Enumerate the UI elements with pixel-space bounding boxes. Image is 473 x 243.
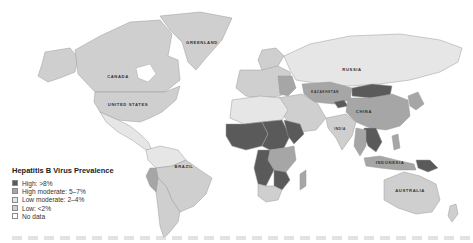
- region-papua-new-guinea: [416, 160, 438, 172]
- region-eastern-europe: [278, 76, 296, 96]
- region-west-africa: [226, 122, 268, 150]
- legend-item-no-data: No data: [12, 212, 114, 220]
- legend-item-high-moderate: High moderate: 5–7%: [12, 187, 114, 195]
- label-indonesia: INDONESIA: [376, 160, 405, 165]
- region-alaska: [38, 48, 78, 82]
- region-canada: [75, 20, 180, 92]
- label-brazil: BRAZIL: [175, 164, 194, 169]
- region-australia: [384, 172, 440, 214]
- region-indochina: [364, 128, 382, 152]
- label-united-states: UNITED STATES: [108, 102, 148, 107]
- label-greenland: GREENLAND: [186, 40, 218, 45]
- region-india: [326, 114, 356, 150]
- legend-label: Low: <2%: [22, 205, 51, 212]
- legend-swatch-high: [12, 180, 18, 186]
- region-east-asia: [408, 92, 424, 110]
- region-philippines: [392, 134, 400, 150]
- region-north-africa: [230, 96, 288, 124]
- label-australia: AUSTRALIA: [395, 188, 425, 193]
- legend-label: Low moderate: 2–4%: [22, 196, 84, 203]
- legend-swatch-no-data: [12, 213, 18, 219]
- region-peru-bolivia: [146, 168, 158, 192]
- label-india: INDIA: [334, 127, 346, 131]
- legend-swatch-low-moderate: [12, 197, 18, 203]
- legend-label: High moderate: 5–7%: [22, 188, 86, 195]
- legend-item-low: Low: <2%: [12, 204, 114, 212]
- region-russia: [284, 34, 462, 86]
- legend-title: Hepatitis B Virus Prevalence: [12, 166, 114, 175]
- region-thailand-malaysia: [354, 128, 366, 156]
- legend-swatch-high-moderate: [12, 188, 18, 194]
- region-madagascar: [300, 170, 306, 190]
- legend-item-high: High: >8%: [12, 179, 114, 187]
- legend-label: High: >8%: [22, 180, 53, 187]
- region-new-zealand: [448, 204, 458, 222]
- legend-swatch-low: [12, 205, 18, 211]
- legend: Hepatitis B Virus Prevalence High: >8% H…: [12, 166, 114, 220]
- label-china: CHINA: [356, 109, 372, 114]
- legend-item-low-moderate: Low moderate: 2–4%: [12, 196, 114, 204]
- illegible-caption-line: [12, 236, 472, 240]
- label-kazakhstan: KAZAKHSTAN: [311, 90, 339, 94]
- label-russia: RUSSIA: [342, 67, 361, 72]
- legend-label: No data: [22, 213, 45, 220]
- label-canada: CANADA: [107, 74, 129, 79]
